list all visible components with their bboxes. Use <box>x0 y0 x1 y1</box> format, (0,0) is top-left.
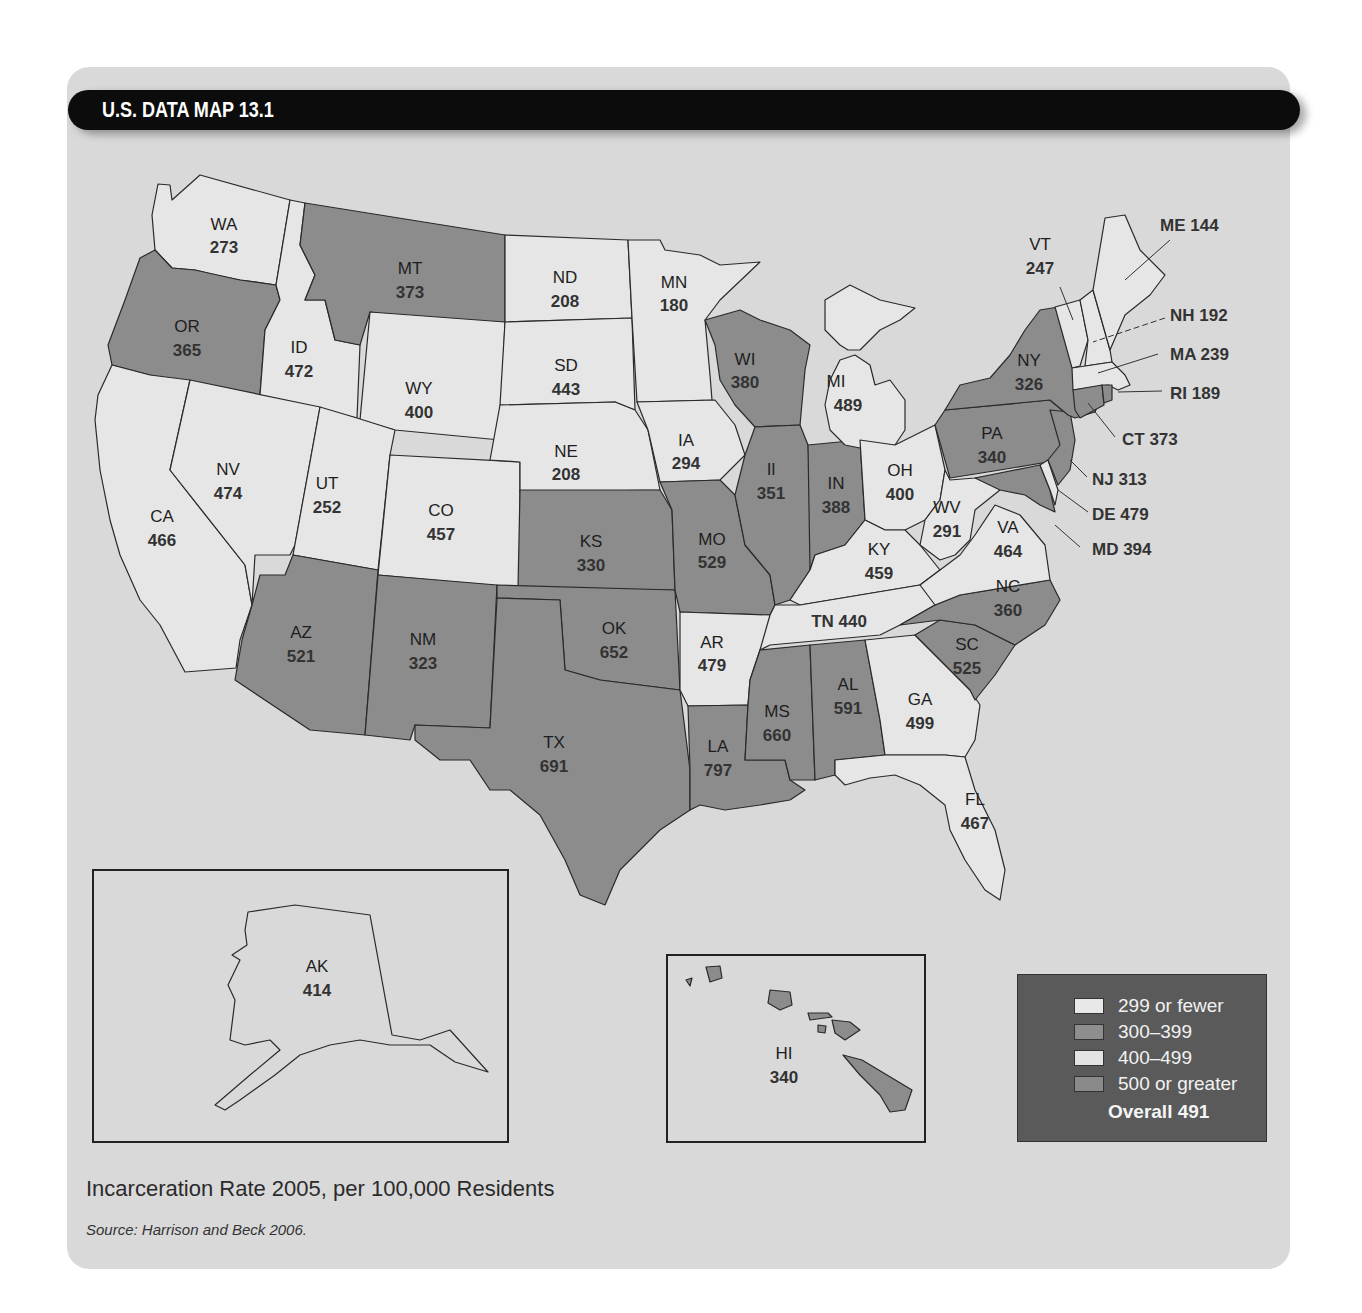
label-NM-abbr: NM <box>410 630 436 649</box>
label-DE: DE 479 <box>1092 505 1149 524</box>
label-NC-value: 360 <box>994 601 1022 620</box>
label-WY-abbr: WY <box>405 379 432 398</box>
legend-label: 300–399 <box>1118 1021 1192 1043</box>
label-NJ: NJ 313 <box>1092 470 1147 489</box>
label-CA-value: 466 <box>148 531 176 550</box>
label-MT-abbr: MT <box>398 259 423 278</box>
leader-DE <box>1058 490 1088 512</box>
label-NC-abbr: NC <box>996 577 1021 596</box>
state-AK[interactable] <box>215 905 488 1110</box>
label-CO-value: 457 <box>427 525 455 544</box>
label-KS-abbr: KS <box>580 532 603 551</box>
label-MD: MD 394 <box>1092 540 1152 559</box>
label-SD-abbr: SD <box>554 356 578 375</box>
label-MA: MA 239 <box>1170 345 1229 364</box>
label-OR-value: 365 <box>173 341 201 360</box>
swatch-dark <box>1074 1076 1104 1092</box>
label-SD-value: 443 <box>552 380 580 399</box>
label-MS-abbr: MS <box>764 702 790 721</box>
label-HI-value: 340 <box>770 1068 798 1087</box>
label-UT-value: 252 <box>313 498 341 517</box>
label-PA-value: 340 <box>978 448 1006 467</box>
label-WV-value: 291 <box>933 522 961 541</box>
label-IN-value: 388 <box>822 498 850 517</box>
label-RI: RI 189 <box>1170 384 1220 403</box>
label-TX-value: 691 <box>540 757 568 776</box>
label-AK-abbr: AK <box>306 957 329 976</box>
label-AR-abbr: AR <box>700 633 724 652</box>
label-OK-value: 652 <box>600 643 628 662</box>
label-OH-value: 400 <box>886 485 914 504</box>
label-VT-abbr: VT <box>1029 235 1051 254</box>
state-CO[interactable] <box>378 455 520 588</box>
label-FL-abbr: FL <box>965 790 985 809</box>
label-NE-abbr: NE <box>554 442 578 461</box>
label-AK-value: 414 <box>303 981 332 1000</box>
label-NE-value: 208 <box>552 465 580 484</box>
label-MO-abbr: MO <box>698 530 725 549</box>
label-CT: CT 373 <box>1122 430 1178 449</box>
label-WA-abbr: WA <box>211 215 238 234</box>
legend-item-500-or-greater: 500 or greater <box>1074 1072 1237 1096</box>
label-IN-abbr: IN <box>828 474 845 493</box>
label-OK-abbr: OK <box>602 619 627 638</box>
state-MI[interactable] <box>825 285 915 448</box>
legend-item-299-or-fewer: 299 or fewer <box>1074 994 1224 1018</box>
label-NH: NH 192 <box>1170 306 1228 325</box>
label-MO-value: 529 <box>698 553 726 572</box>
label-ID-abbr: ID <box>291 338 308 357</box>
state-HI[interactable] <box>686 966 912 1112</box>
swatch-light <box>1074 1050 1104 1066</box>
label-KY-abbr: KY <box>868 540 891 559</box>
legend-label: 299 or fewer <box>1118 995 1224 1017</box>
label-NV-value: 474 <box>214 484 243 503</box>
label-NM-value: 323 <box>409 654 437 673</box>
label-ND-value: 208 <box>551 292 579 311</box>
label-CA-abbr: CA <box>150 507 174 526</box>
label-WV-abbr: WV <box>933 498 961 517</box>
label-AZ-abbr: AZ <box>290 623 312 642</box>
label-VT-value: 247 <box>1026 259 1054 278</box>
label-MN-abbr: MN <box>661 273 687 292</box>
state-RI[interactable] <box>1102 385 1112 403</box>
legend-item-300-399: 300–399 <box>1074 1020 1192 1044</box>
label-IA-value: 294 <box>672 454 701 473</box>
legend: 299 or fewer 300–399 400–499 500 or grea… <box>1017 974 1267 1142</box>
label-ND-abbr: ND <box>553 268 578 287</box>
label-NY-abbr: NY <box>1017 351 1041 370</box>
swatch-light <box>1074 998 1104 1014</box>
state-AZ[interactable] <box>235 555 378 735</box>
map-source: Source: Harrison and Beck 2006. <box>86 1221 307 1238</box>
label-AR-value: 479 <box>698 656 726 675</box>
label-TN: TN 440 <box>811 612 867 631</box>
label-MS-value: 660 <box>763 726 791 745</box>
label-ID-value: 472 <box>285 362 313 381</box>
label-NV-abbr: NV <box>216 460 240 479</box>
leader-NJ <box>1070 460 1087 477</box>
label-CO-abbr: CO <box>428 501 454 520</box>
label-WI-abbr: WI <box>735 350 756 369</box>
label-SC-abbr: SC <box>955 635 979 654</box>
label-NY-value: 326 <box>1015 375 1043 394</box>
label-IL-value: 351 <box>757 484 785 503</box>
label-LA-value: 797 <box>704 761 732 780</box>
swatch-dark <box>1074 1024 1104 1040</box>
label-VA-value: 464 <box>994 542 1023 561</box>
label-MI-value: 489 <box>834 396 862 415</box>
label-VA-abbr: VA <box>997 518 1019 537</box>
label-WY-value: 400 <box>405 403 433 422</box>
label-SC-value: 525 <box>953 659 981 678</box>
label-WI-value: 380 <box>731 373 759 392</box>
leader-RI <box>1118 391 1162 392</box>
label-UT-abbr: UT <box>316 474 339 493</box>
state-CT[interactable] <box>1073 385 1104 418</box>
label-IL-abbr: Il <box>767 460 776 479</box>
label-IA-abbr: IA <box>678 431 695 450</box>
leader-MD <box>1055 525 1080 547</box>
label-AL-value: 591 <box>834 699 862 718</box>
label-LA-abbr: LA <box>708 737 729 756</box>
legend-overall: Overall 491 <box>1108 1101 1209 1123</box>
label-OR-abbr: OR <box>174 317 200 336</box>
label-TX-abbr: TX <box>543 733 565 752</box>
legend-item-400-499: 400–499 <box>1074 1046 1192 1070</box>
